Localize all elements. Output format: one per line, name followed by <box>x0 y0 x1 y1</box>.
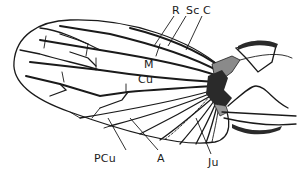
crossvein <box>62 72 64 82</box>
label-C: C <box>203 4 211 17</box>
label-R: R <box>172 4 180 17</box>
vein-radial-branch <box>60 34 88 44</box>
thorax-mid-curve <box>228 86 288 108</box>
vein-media <box>30 62 216 82</box>
vein-postcubitus <box>196 100 217 144</box>
label-Ju: Ju <box>207 156 219 169</box>
crossvein <box>44 36 46 48</box>
crossvein <box>86 44 88 56</box>
veinlet <box>92 108 100 118</box>
thorax <box>222 40 296 134</box>
wing-base <box>206 56 240 116</box>
label-Sc: Sc <box>186 4 199 17</box>
thorax-lower-line <box>222 112 296 116</box>
leader-A <box>130 118 158 150</box>
wing <box>14 20 229 144</box>
label-Cu: Cu <box>138 73 153 86</box>
label-PCu: PCu <box>94 152 116 165</box>
wing-venation-diagram: R Sc C M Cu PCu A Ju <box>0 0 306 177</box>
label-A: A <box>157 152 165 165</box>
vein-media-branch <box>20 50 100 70</box>
thorax-lower-line <box>224 118 296 125</box>
thorax-upper-shading <box>238 40 278 50</box>
thorax-lower-shading <box>232 124 282 134</box>
veinlet <box>104 126 110 128</box>
vein-media-branch <box>70 52 96 66</box>
leader-C <box>186 16 202 50</box>
label-M: M <box>144 58 154 71</box>
